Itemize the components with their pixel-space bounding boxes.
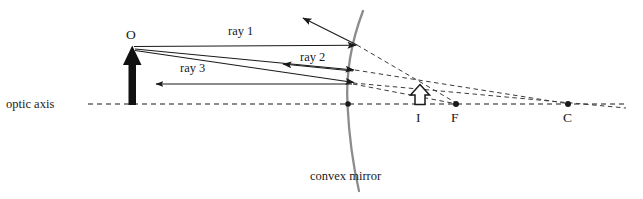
ray1-label: ray 1 <box>228 24 253 39</box>
focal-point-label: F <box>451 110 459 126</box>
virtual-extension-ray2 <box>355 70 570 104</box>
convex-mirror-arc <box>347 11 363 191</box>
object-arrow <box>123 46 142 106</box>
center-point-dot <box>565 101 571 107</box>
image-point-label: I <box>416 110 421 126</box>
mirror-vertex-dot <box>345 101 351 107</box>
center-point-label: C <box>563 110 572 126</box>
ray3-label: ray 3 <box>180 61 205 76</box>
object-point-label: O <box>126 27 136 43</box>
focal-point-dot <box>453 101 459 107</box>
ray1-incident <box>134 45 356 46</box>
optic-axis-label: optic axis <box>6 97 54 112</box>
ray2-reflected <box>283 64 353 71</box>
image-arrow <box>411 85 430 105</box>
ray1-reflected <box>303 18 357 45</box>
virtual-extension-ray1 <box>357 45 458 104</box>
ray2-label: ray 2 <box>300 50 325 65</box>
ray-diagram-figure: optic axis O ray 1 ray 2 ray 3 I F C con… <box>0 0 643 199</box>
convex-mirror-label: convex mirror <box>310 169 381 184</box>
virtual-extension-ray3-lower <box>353 84 452 103</box>
virtual-extension-ray3 <box>353 83 626 108</box>
